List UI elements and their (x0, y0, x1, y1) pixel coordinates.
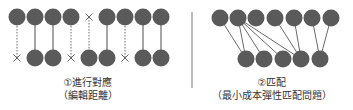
sequence-node (45, 9, 62, 26)
sequence-node (99, 50, 116, 67)
sequence-node (135, 50, 152, 67)
sequence-node (45, 50, 62, 67)
sequence-node (27, 9, 44, 26)
sequence-node (9, 9, 26, 26)
sequence-node (153, 50, 170, 67)
bottom-node (293, 51, 310, 68)
left-caption: ①進行對應 （編輯距離） (38, 76, 138, 102)
bottom-node (238, 51, 255, 68)
top-node (286, 10, 303, 27)
top-node (230, 10, 247, 27)
right-caption: ②匹配 （最小成本彈性匹配問題） (197, 76, 347, 102)
top-node (304, 10, 321, 27)
bottom-node (275, 51, 292, 68)
gap-cross-icon (68, 55, 75, 62)
top-node (267, 10, 284, 27)
top-node (248, 10, 265, 27)
gap-cross-icon (122, 55, 129, 62)
right-caption-subtitle: （最小成本彈性匹配問題） (197, 89, 347, 102)
top-node (212, 10, 229, 27)
sequence-node (135, 9, 152, 26)
gap-cross-icon (86, 14, 93, 21)
gap-cross-icon (14, 55, 21, 62)
left-caption-title: ①進行對應 (38, 76, 138, 89)
top-node (323, 10, 340, 27)
sequence-node (27, 50, 44, 67)
left-caption-subtitle: （編輯距離） (38, 89, 138, 102)
sequence-node (117, 9, 134, 26)
bottom-node (256, 51, 273, 68)
bottom-node (312, 51, 329, 68)
sequence-node (81, 50, 98, 67)
right-caption-title: ②匹配 (197, 76, 347, 89)
sequence-node (153, 9, 170, 26)
sequence-node (99, 9, 116, 26)
sequence-node (63, 9, 80, 26)
